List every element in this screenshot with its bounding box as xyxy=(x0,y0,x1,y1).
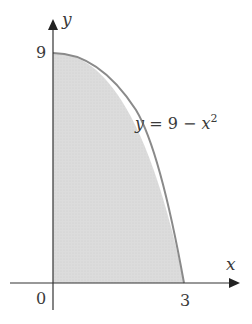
y-axis-arrow-icon xyxy=(48,19,58,30)
y-tick-9: 9 xyxy=(36,43,46,62)
x-tick-3: 3 xyxy=(180,291,190,310)
equation-label: y = 9 − x2 xyxy=(134,112,217,133)
graph: y x 9 0 3 y = 9 − x2 xyxy=(0,0,252,324)
x-axis-label: x xyxy=(226,254,236,274)
origin-label: 0 xyxy=(36,289,46,308)
x-axis-arrow-icon xyxy=(229,278,240,288)
y-axis-label: y xyxy=(61,9,72,29)
